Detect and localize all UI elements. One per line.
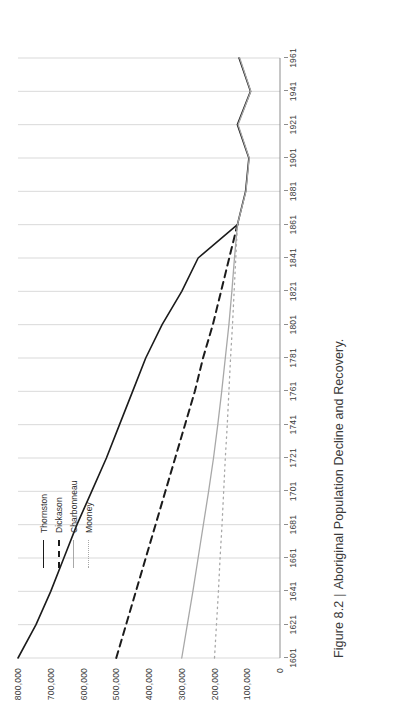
x-axis-tick-label: 1801 xyxy=(288,315,298,335)
x-axis-tick-label: 1961 xyxy=(288,48,298,68)
x-axis-tick-label: 1701 xyxy=(288,481,298,501)
x-axis-tick-label: 1841 xyxy=(288,248,298,268)
legend-item-mooney: Mooney xyxy=(81,448,96,568)
x-axis-tick-mark xyxy=(284,490,288,491)
x-axis-tick-label: 1781 xyxy=(288,348,298,368)
y-axis-tick-labels: 0100,000200,000300,000400,000500,000600,… xyxy=(18,662,280,720)
y-axis-tick-label: 700,000 xyxy=(46,668,56,700)
x-axis-tick-label: 1741 xyxy=(288,415,298,435)
y-axis-tick-label: 600,000 xyxy=(79,668,89,700)
x-axis-tick-label: 1761 xyxy=(288,381,298,401)
line-chart xyxy=(18,58,280,658)
legend-item-charbonneau: Charbonneau xyxy=(66,448,81,568)
y-axis-tick-label: 400,000 xyxy=(144,668,154,700)
x-axis-tick-label: 1861 xyxy=(288,215,298,235)
caption-separator: | xyxy=(332,593,346,596)
plot-area xyxy=(18,58,280,658)
x-axis-tick-label: 1821 xyxy=(288,281,298,301)
figure-8-2: 0100,000200,000300,000400,000500,000600,… xyxy=(0,0,397,720)
y-axis-tick-label: 100,000 xyxy=(242,668,252,700)
x-axis-tick-label: 1641 xyxy=(288,581,298,601)
x-axis-tick-label: 1901 xyxy=(288,148,298,168)
chart-legend: ThornstonDickasonCharbonneauMooney xyxy=(36,448,96,568)
y-axis-tick-label: 200,000 xyxy=(210,668,220,700)
x-axis-tick-mark xyxy=(284,590,288,591)
legend-item-dickason: Dickason xyxy=(51,448,66,568)
x-axis-tick-mark xyxy=(284,557,288,558)
x-axis-tick-label: 1621 xyxy=(288,615,298,635)
x-axis-tick-mark xyxy=(284,124,288,125)
x-axis-tick-mark xyxy=(284,657,288,658)
x-axis-tick-mark xyxy=(284,90,288,91)
y-axis-tick-label: 800,000 xyxy=(13,668,23,700)
x-axis-tick-label: 1681 xyxy=(288,515,298,535)
x-axis-tick-label: 1941 xyxy=(288,81,298,101)
series-line-mooney xyxy=(215,225,238,658)
x-axis-tick-mark xyxy=(284,224,288,225)
x-axis-tick-label: 1721 xyxy=(288,448,298,468)
x-axis-tick-labels: 1601162116411661168117011721174117611781… xyxy=(284,58,318,658)
legend-item-label: Mooney xyxy=(84,502,94,533)
x-axis-tick-mark xyxy=(284,357,288,358)
figure-stage: 0100,000200,000300,000400,000500,000600,… xyxy=(0,0,397,720)
caption-title: Aboriginal Population Decline and Recove… xyxy=(332,339,346,590)
legend-item-label: Thornston xyxy=(39,494,49,533)
x-axis-tick-mark xyxy=(284,190,288,191)
x-axis-tick-mark xyxy=(284,524,288,525)
caption-figure-number: Figure 8.2 xyxy=(332,601,346,658)
x-axis-tick-mark xyxy=(284,390,288,391)
x-axis-tick-mark xyxy=(284,157,288,158)
legend-item-label: Charbonneau xyxy=(69,480,79,533)
figure-caption: Figure 8.2|Aboriginal Population Decline… xyxy=(332,339,346,658)
x-axis-tick-mark xyxy=(284,257,288,258)
x-axis-tick-mark xyxy=(284,57,288,58)
x-axis-tick-mark xyxy=(284,457,288,458)
x-axis-tick-mark xyxy=(284,324,288,325)
legend-item-label: Dickason xyxy=(54,497,64,533)
y-axis-tick-label: 500,000 xyxy=(111,668,121,700)
y-axis-tick-label: 300,000 xyxy=(177,668,187,700)
x-axis-tick-label: 1921 xyxy=(288,115,298,135)
x-axis-tick-label: 1881 xyxy=(288,181,298,201)
y-axis-tick-label: 0 xyxy=(275,668,285,673)
legend-item-thornston: Thornston xyxy=(36,448,51,568)
series-line-dickason xyxy=(116,225,237,658)
x-axis-tick-mark xyxy=(284,290,288,291)
x-axis-tick-label: 1601 xyxy=(288,648,298,668)
x-axis-tick-mark xyxy=(284,624,288,625)
x-axis-tick-label: 1661 xyxy=(288,548,298,568)
x-axis-tick-mark xyxy=(284,424,288,425)
